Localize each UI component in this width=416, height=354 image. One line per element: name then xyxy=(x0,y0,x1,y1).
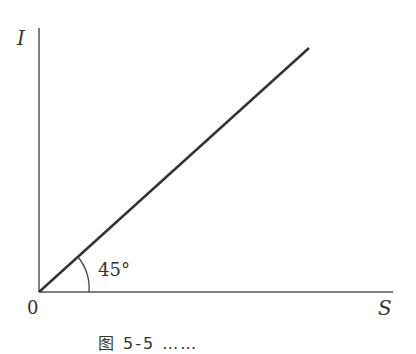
origin-label: 0 xyxy=(27,297,38,318)
y-axis-label: I xyxy=(17,26,25,50)
angle-arc xyxy=(78,257,89,292)
x-axis-label: S xyxy=(378,296,392,320)
45-degree-line xyxy=(39,48,309,292)
figure-caption: 图 5-5 …… xyxy=(98,330,338,354)
angle-label: 45° xyxy=(98,259,130,280)
